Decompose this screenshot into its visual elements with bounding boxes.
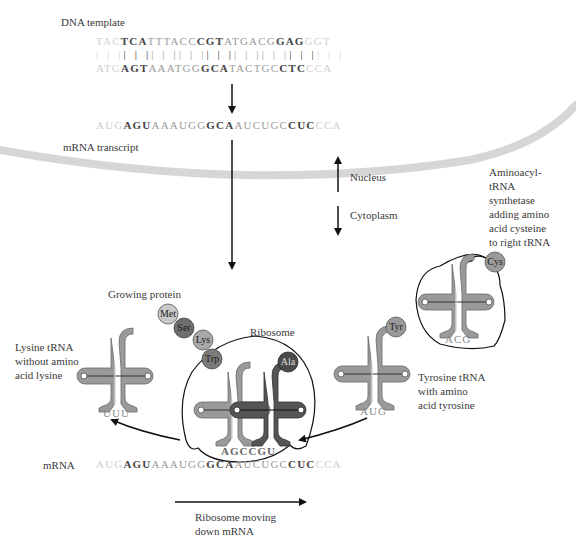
base-pair-bars: | | | [96, 48, 124, 60]
codon: CCA [306, 62, 332, 74]
codon: AUC [234, 458, 261, 470]
base-pair-bars: | | | [234, 48, 262, 60]
codon: GCA [201, 62, 229, 74]
codon: TAC [229, 62, 254, 74]
mrna-transcript-label: mRNA transcript [63, 140, 138, 154]
dna-template-label: DNA template [61, 15, 125, 29]
base-pair-bars: | | | [317, 48, 345, 60]
codon: ATG [224, 35, 249, 47]
base-pair-bars: | | | [262, 48, 290, 60]
codon: TGG [175, 62, 201, 74]
dna-bottom-strand: ATGAGTAAATGGGCATACTGCCTCCCA [96, 62, 332, 74]
codon: GCA [206, 458, 234, 470]
codon: UGG [179, 119, 206, 131]
codon: TTT [148, 35, 171, 47]
codon: GCA [206, 119, 234, 131]
codon: AUG [96, 119, 123, 131]
codon: ACC [170, 35, 196, 47]
codon: UGC [261, 119, 288, 131]
codon: AGU [123, 458, 151, 470]
dna-base-pair-bars: | | || | || | || | || | || | || | || | |… [96, 48, 344, 60]
mrna-sequence: AUGAGUAAAUGGGCAAUCUGCCUCCCA [96, 458, 342, 470]
codon: AUC [234, 119, 261, 131]
lysine-trna-anticodon: UUU [103, 407, 130, 419]
codon: AUG [96, 458, 123, 470]
codon: UGC [261, 458, 288, 470]
svg-text:Met: Met [160, 308, 176, 319]
lysine-trna-label: Lysine tRNA without amino acid lysine [15, 340, 79, 382]
codon: AAA [148, 62, 174, 74]
codon: ACG [249, 35, 276, 47]
nucleus-label: Nucleus [350, 170, 386, 184]
codon: TCA [121, 35, 148, 47]
svg-text:Ser: Ser [177, 322, 191, 333]
synthetase-label: Aminoacyl- tRNA synthetase adding amino … [489, 165, 550, 249]
dna-top-strand: TACTCATTTACCCGTATGACGGAGGGT [96, 35, 331, 47]
codon: GAG [276, 35, 305, 47]
codon: CUC [288, 458, 315, 470]
base-pair-bars: | | | [124, 48, 152, 60]
svg-text:Ala: Ala [281, 356, 296, 367]
codon: CUC [288, 119, 315, 131]
tyrosine-enter-arrow [300, 418, 367, 440]
ribosome-label: Ribosome [250, 325, 295, 339]
ribosome-moving-label: Ribosome moving down mRNA [195, 510, 276, 538]
codon: CCA [316, 458, 342, 470]
codon: UGG [179, 458, 206, 470]
codon: TAC [96, 35, 121, 47]
lysine-exit-arrow [112, 420, 180, 440]
mrna-transcript-sequence: AUGAGUAAAUGGGCAAUCUGCCUCCCA [96, 119, 342, 131]
growing-protein-label: Growing protein [108, 287, 181, 301]
tyrosine-trna-label: Tyrosine tRNA with amino acid tyrosine [418, 370, 485, 412]
codon: GGT [305, 35, 331, 47]
cys-trna-anticodon: ACG [445, 333, 471, 345]
svg-text:Trp: Trp [205, 353, 219, 364]
codon: ATG [96, 62, 121, 74]
base-pair-bars: | | | [151, 48, 179, 60]
codon: AGT [121, 62, 148, 74]
codon: AAA [151, 119, 178, 131]
svg-text:Lys: Lys [196, 334, 211, 345]
svg-text:Tyr: Tyr [389, 321, 403, 332]
codon: CGT [197, 35, 224, 47]
codon: CTC [279, 62, 306, 74]
base-pair-bars: | | | [179, 48, 207, 60]
tyrosine-trna-anticodon: AUG [360, 405, 387, 417]
codon: AGU [123, 119, 151, 131]
base-pair-bars: | | | [206, 48, 234, 60]
codon: CCA [316, 119, 342, 131]
codon: TGC [254, 62, 280, 74]
mrna-label: mRNA [43, 458, 75, 472]
cytoplasm-label: Cytoplasm [350, 208, 398, 222]
svg-text:Cys: Cys [487, 256, 503, 267]
base-pair-bars: | | | [289, 48, 317, 60]
codon: AAA [151, 458, 178, 470]
ribosome-anticodons: AGCCGU [221, 445, 276, 457]
